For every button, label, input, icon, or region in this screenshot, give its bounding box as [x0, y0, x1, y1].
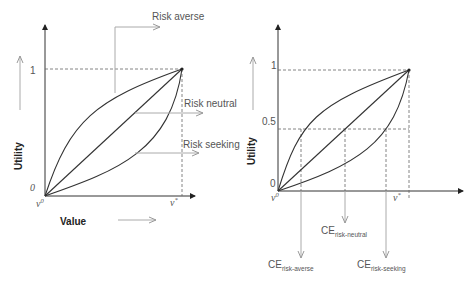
left-x-tick-v0: v0	[36, 197, 44, 209]
left-y-axis-label: Utility	[13, 142, 24, 170]
right-y-tick-05: 0.5	[262, 116, 276, 127]
ce-risk-averse-label: CErisk-averse	[268, 259, 314, 272]
right-x-tick-vstar: v*	[393, 191, 401, 203]
risk-seeking-label: Risk seeking	[183, 139, 240, 150]
risk-averse-pointer	[115, 27, 160, 93]
ce-risk-seeking-label: CErisk-seeking	[357, 259, 406, 273]
risk-neutral-label: Risk neutral	[184, 98, 237, 109]
risk-averse-label: Risk averse	[152, 11, 205, 22]
utility-diagram: Risk averse Risk neutral Risk seeking 1 …	[0, 0, 475, 285]
left-x-axis-label: Value	[60, 216, 87, 227]
right-endpoint	[407, 68, 410, 71]
left-y-tick-0: 0	[30, 182, 35, 193]
right-y-tick-0: 0	[270, 178, 276, 189]
right-x-tick-v0: v0	[271, 191, 279, 203]
ce-risk-neutral-label: CErisk-neutral	[321, 225, 368, 238]
right-y-tick-1: 1	[271, 60, 277, 71]
left-y-tick-1: 1	[30, 65, 36, 76]
left-curve-risk-neutral	[45, 69, 182, 196]
right-y-axis-label: Utility	[246, 137, 257, 165]
left-endpoint	[180, 67, 183, 70]
right-curve-risk-neutral	[278, 70, 409, 191]
left-x-tick-vstar: v*	[170, 196, 178, 208]
right-chart: CErisk-neutral CErisk-averse CErisk-seek…	[246, 25, 463, 273]
left-chart: Risk averse Risk neutral Risk seeking 1 …	[13, 11, 240, 227]
